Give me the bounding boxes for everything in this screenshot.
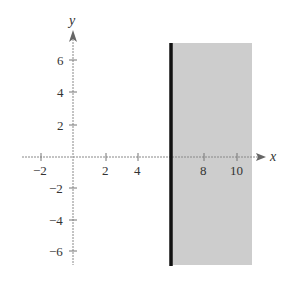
y-tick-label: 2 [57,118,64,133]
inequality-graph: x y −2 2 4 8 10 6 4 2 −2 −4 −6 [0,0,290,283]
y-tick-label: −6 [49,244,63,259]
x-tick-label: 8 [200,163,207,178]
x-tick-label: 10 [230,163,243,178]
y-tick-label: −2 [49,181,63,196]
y-tick-label: 4 [57,85,64,100]
x-tick-label: 4 [134,163,141,178]
x-tick-label: 2 [102,163,109,178]
shaded-region [170,43,252,265]
y-tick-label: 6 [57,53,64,68]
x-axis-label: x [269,149,277,164]
y-axis-label: y [67,13,76,28]
y-tick-label: −4 [49,213,63,228]
x-tick-label: −2 [33,163,47,178]
